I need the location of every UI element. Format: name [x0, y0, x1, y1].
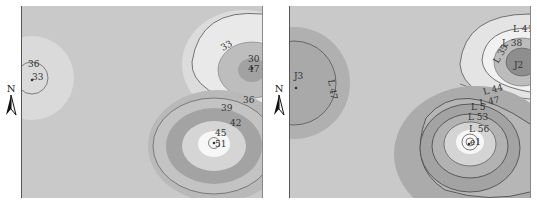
contour-label: 42 — [230, 118, 241, 128]
contour-label: J3 — [293, 71, 304, 81]
contour-label: L 5 — [471, 102, 486, 112]
contour-map-right: J3 L 47 L 41 L 38 L 35 J2 L 44 L 47 L 5 … — [289, 6, 531, 198]
contour-label: 47 — [248, 64, 260, 74]
contour-label: 36 — [28, 59, 40, 69]
north-label: N — [3, 84, 19, 94]
contour-map-right-graphic: J3 L 47 L 41 L 38 L 35 J2 L 44 L 47 L 5 … — [290, 6, 530, 198]
contour-label: L 56 — [469, 124, 490, 134]
contour-label: 45 — [215, 128, 227, 138]
north-arrow-icon — [273, 95, 285, 115]
contour-map-left-graphic: 36 33 33 30 47 36 39 42 45 51 — [22, 6, 262, 198]
contour-map-left: 36 33 33 30 47 36 39 42 45 51 — [21, 6, 263, 198]
contour-label: 36 — [243, 95, 255, 105]
contour-label: L 53 — [468, 112, 489, 122]
contour-label: L 41 — [513, 24, 530, 34]
contour-label: e1 — [470, 137, 481, 147]
contour-label: 51 — [215, 139, 226, 149]
contour-label: J2 — [513, 60, 523, 70]
north-arrow-right: N — [271, 84, 287, 115]
contour-label: 33 — [32, 72, 44, 82]
contour-label: 30 — [248, 54, 260, 64]
north-arrow-left: N — [3, 84, 19, 115]
contour-label: 39 — [221, 103, 233, 113]
north-arrow-icon — [5, 95, 17, 115]
north-label: N — [271, 84, 287, 94]
